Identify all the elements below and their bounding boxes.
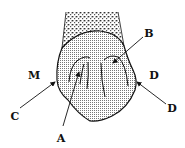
mesial-side-label: M	[28, 70, 40, 81]
arrow-d	[137, 82, 166, 104]
callout-label-c: C	[11, 111, 20, 122]
callout-label-d: D	[167, 103, 177, 114]
callout-label-b: B	[144, 28, 153, 39]
callout-label-a: A	[57, 133, 66, 144]
arrow-c	[20, 82, 55, 108]
distal-side-label: D	[149, 70, 159, 81]
